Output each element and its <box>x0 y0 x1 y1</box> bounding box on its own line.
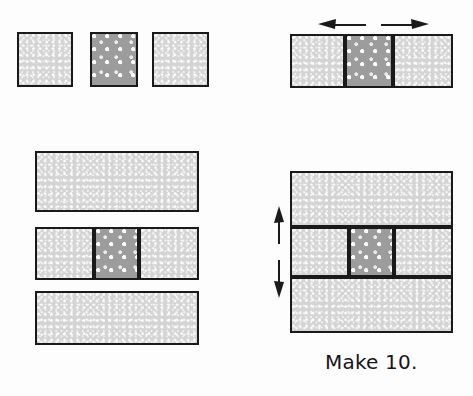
row-bottom-strip <box>35 291 199 345</box>
square-dark-center <box>90 32 138 87</box>
row-square-dark-center <box>345 34 393 88</box>
press-up-arrow <box>270 204 288 246</box>
press-right-arrow <box>379 16 431 34</box>
row-middle-dark-center <box>94 227 139 280</box>
block-top-strip <box>290 171 453 227</box>
square-light-left <box>17 32 73 87</box>
press-left-arrow <box>316 16 368 34</box>
row-top-strip <box>35 151 199 212</box>
quilt-block-diagram: Make 10. <box>0 0 473 396</box>
block-middle-dark-center <box>349 227 394 277</box>
make-count-caption: Make 10. <box>325 350 417 374</box>
press-down-arrow <box>270 258 288 300</box>
block-bottom-strip <box>290 277 453 333</box>
row-middle-light-right <box>139 227 199 280</box>
row-square-light-left <box>290 34 345 88</box>
square-light-right <box>152 32 209 87</box>
row-square-light-right <box>393 34 453 88</box>
row-middle-light-left <box>35 227 94 280</box>
block-middle-light-left <box>290 227 349 277</box>
block-middle-light-right <box>394 227 453 277</box>
